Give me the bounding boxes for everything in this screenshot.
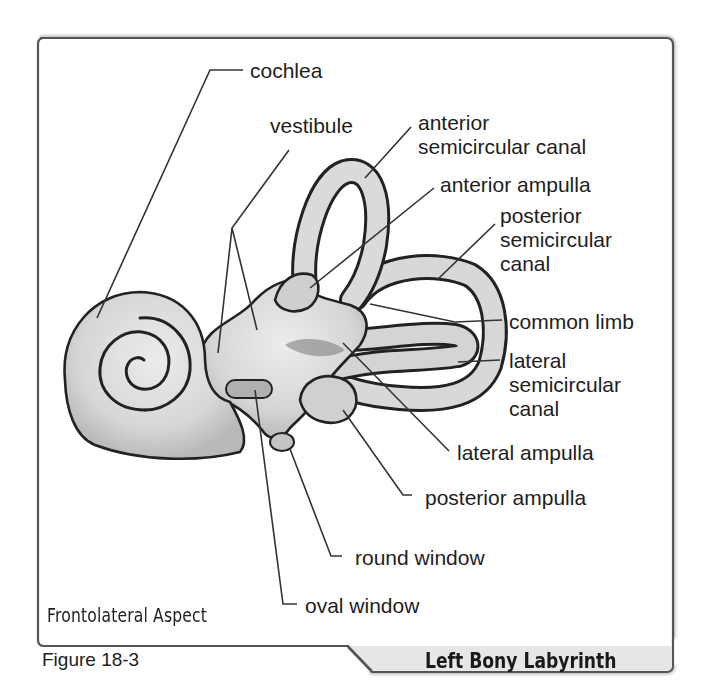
label-posterior-canal-line1: posterior — [500, 205, 582, 226]
label-common-limb: common limb — [509, 311, 634, 332]
label-anterior-canal-line2: semicircular canal — [418, 136, 586, 157]
figure-number: Figure 18-3 — [42, 649, 139, 671]
round-window-shape — [270, 433, 294, 451]
label-vestibule: vestibule — [270, 115, 353, 136]
oval-window-shape — [226, 380, 272, 398]
label-lateral-ampulla: lateral ampulla — [457, 442, 594, 463]
label-posterior-ampulla: posterior ampulla — [425, 487, 586, 508]
view-aspect-label: Frontolateral Aspect — [47, 603, 207, 627]
label-oval-window: oval window — [305, 595, 419, 616]
label-anterior-ampulla: anterior ampulla — [440, 174, 591, 195]
label-round-window: round window — [355, 547, 485, 568]
label-lateral-canal-line1: lateral — [509, 350, 566, 371]
label-cochlea: cochlea — [250, 60, 322, 81]
label-lateral-canal-line3: canal — [509, 398, 559, 419]
label-anterior-canal-line1: anterior — [418, 112, 489, 133]
label-lateral-canal-line2: semicircular — [509, 374, 621, 395]
figure-title: Left Bony Labyrinth — [425, 648, 616, 673]
label-posterior-canal-line2: semicircular — [500, 229, 612, 250]
label-posterior-canal-line3: canal — [500, 253, 550, 274]
figure-frame — [0, 0, 709, 687]
